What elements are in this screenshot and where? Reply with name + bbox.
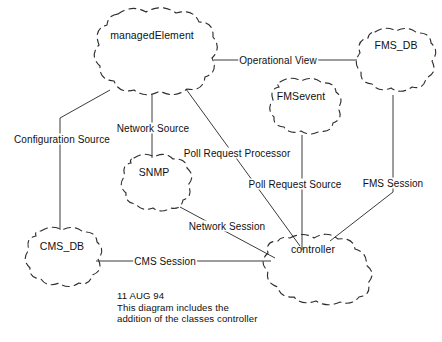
cloud-shape-fmsevent: [270, 78, 341, 134]
node-label-cms-db: CMS_DB: [40, 240, 84, 252]
node-label-fms-db: FMS_DB: [374, 39, 417, 51]
edge-label-operational-view: Operational View: [238, 55, 318, 66]
edge-label-poll-request-processor: Poll Request Processor: [183, 148, 292, 159]
cloud-shape-managed-element: [94, 8, 217, 95]
cloud-shape-cms-db: [25, 227, 102, 286]
diagram-note: 11 AUG 94 This diagram includes the addi…: [117, 290, 257, 325]
edge-line-network-session: [180, 207, 275, 258]
edge-line-configuration-source: [60, 90, 110, 230]
note-line-date: 11 AUG 94: [117, 290, 257, 302]
cloud-shape-snmp: [121, 154, 192, 211]
diagram-canvas: managedElement FMS_DB FMSevent SNMP CMS_…: [0, 0, 442, 342]
edge-label-poll-request-source: Poll Request Source: [247, 179, 342, 190]
node-label-snmp: SNMP: [139, 166, 170, 178]
edge-label-network-session: Network Session: [188, 221, 267, 232]
cloud-shape-fms-db: [356, 28, 436, 91]
node-label-fmsevent: FMSevent: [277, 90, 326, 102]
node-label-managed-element: managedElement: [110, 29, 194, 41]
note-line-one: This diagram includes the: [117, 302, 257, 314]
node-label-controller: controller: [291, 243, 335, 255]
edge-label-cms-session: CMS Session: [133, 256, 197, 267]
note-line-two: addition of the classes controller: [117, 313, 257, 325]
edge-label-network-source: Network Source: [116, 123, 191, 134]
edge-label-configuration-source: Configuration Source: [13, 134, 111, 145]
edge-label-fms-session: FMS Session: [362, 178, 425, 189]
